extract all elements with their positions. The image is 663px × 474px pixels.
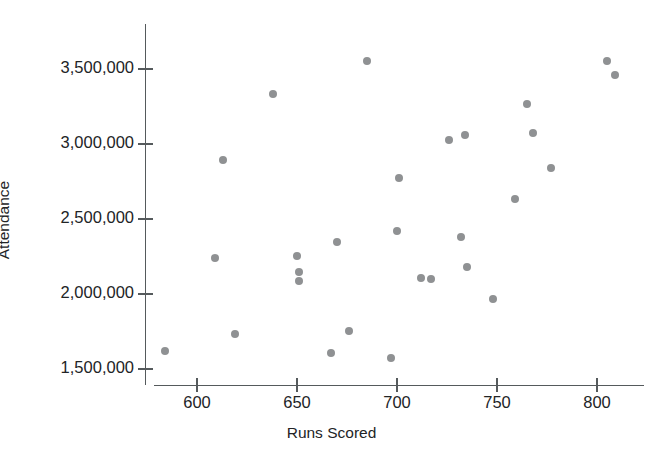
data-point <box>445 136 453 144</box>
x-tick-mark <box>196 378 197 392</box>
data-point <box>417 274 425 282</box>
x-axis-line <box>154 385 644 386</box>
y-tick-mark <box>138 368 153 369</box>
y-axis-title: Attendance <box>0 130 13 310</box>
data-point <box>511 195 519 203</box>
data-point <box>161 347 169 355</box>
y-tick-mark <box>138 218 153 219</box>
data-point <box>295 268 303 276</box>
y-tick-label: 3,000,000 <box>22 133 134 152</box>
y-tick-mark <box>138 143 153 144</box>
data-point <box>293 252 301 260</box>
x-tick-label: 600 <box>162 393 232 412</box>
data-point <box>231 330 239 338</box>
data-point <box>393 227 401 235</box>
y-tick-label: 2,000,000 <box>22 283 134 302</box>
x-tick-label: 700 <box>362 393 432 412</box>
y-tick-mark <box>138 293 153 294</box>
data-point <box>395 174 403 182</box>
x-tick-label: 750 <box>462 393 532 412</box>
y-tick-mark <box>138 68 153 69</box>
data-point <box>363 57 371 65</box>
y-axis-line <box>145 24 146 385</box>
x-tick-label: 650 <box>262 393 332 412</box>
data-point <box>461 131 469 139</box>
data-point <box>211 254 219 262</box>
data-point <box>529 129 537 137</box>
data-point <box>463 263 471 271</box>
data-point <box>269 90 277 98</box>
data-point <box>327 349 335 357</box>
y-tick-label: 2,500,000 <box>22 208 134 227</box>
x-tick-label: 800 <box>562 393 632 412</box>
x-tick-mark <box>496 378 497 392</box>
data-point <box>427 275 435 283</box>
y-tick-label: 1,500,000 <box>22 358 134 377</box>
x-axis-title: Runs Scored <box>0 424 663 442</box>
x-tick-mark <box>296 378 297 392</box>
data-point <box>345 327 353 335</box>
data-point <box>219 156 227 164</box>
scatter-plot-figure: 1,500,0002,000,0002,500,0003,000,0003,50… <box>0 0 663 474</box>
data-point <box>295 277 303 285</box>
data-point <box>387 354 395 362</box>
data-point <box>333 238 341 246</box>
data-point <box>611 71 619 79</box>
data-point <box>603 57 611 65</box>
y-tick-label: 3,500,000 <box>22 58 134 77</box>
data-point <box>523 100 531 108</box>
data-point <box>547 164 555 172</box>
x-tick-mark <box>596 378 597 392</box>
data-point <box>457 233 465 241</box>
x-tick-mark <box>396 378 397 392</box>
data-point <box>489 295 497 303</box>
